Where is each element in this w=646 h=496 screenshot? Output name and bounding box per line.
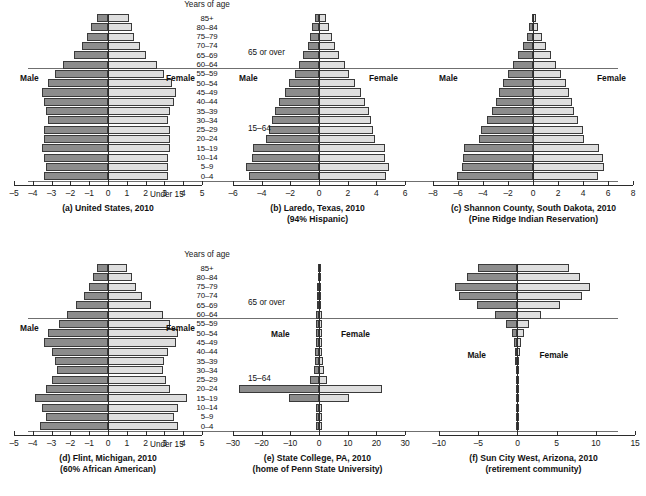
female-bar <box>319 23 329 31</box>
x-axis-tick-label: 10 <box>585 438 607 448</box>
x-axis-tick <box>319 431 320 435</box>
female-label-f: Female <box>539 350 568 360</box>
male-bar <box>289 79 319 87</box>
x-axis-tick <box>164 431 165 435</box>
female-bar <box>108 283 136 291</box>
male-bar <box>266 135 319 143</box>
female-bar <box>108 320 170 328</box>
x-axis-tick-label: –10 <box>279 438 301 448</box>
x-axis-tick <box>483 181 484 185</box>
female-label-e: Female <box>341 329 370 339</box>
x-axis-tick <box>70 181 71 185</box>
female-bar <box>517 301 559 309</box>
x-axis-tick-label: 10 <box>337 438 359 448</box>
x-axis-tick <box>14 181 15 185</box>
female-bar <box>319 163 389 171</box>
x-axis-tick <box>635 431 636 435</box>
male-bar <box>272 116 319 124</box>
male-bar <box>513 61 533 69</box>
panel-e-state-college: –30–20–100102030MaleFemale(e) State Coll… <box>215 250 420 496</box>
male-bar <box>487 116 533 124</box>
male-bar <box>467 273 517 281</box>
x-axis-tick-label: 20 <box>365 438 387 448</box>
female-bar <box>319 116 371 124</box>
male-bar <box>246 163 319 171</box>
x-axis-tick <box>633 181 634 185</box>
female-bar <box>319 98 365 106</box>
female-bar <box>517 264 569 272</box>
male-bar <box>506 320 517 328</box>
female-bar <box>533 116 578 124</box>
female-bar <box>108 42 140 50</box>
x-axis-tick-label: 6 <box>597 188 619 198</box>
x-axis-line-f <box>439 435 635 436</box>
male-bar <box>239 385 319 393</box>
female-bar <box>533 154 603 162</box>
female-bar <box>319 376 327 384</box>
male-bar <box>82 42 108 50</box>
male-bar <box>46 413 108 421</box>
center-axis-line <box>319 14 320 185</box>
x-axis-tick-label: 0 <box>522 188 544 198</box>
female-bar <box>517 283 589 291</box>
x-axis-tick-label: 4 <box>365 188 387 198</box>
female-bar <box>517 311 541 319</box>
x-axis-line-c <box>433 185 633 186</box>
female-bar <box>533 70 561 78</box>
x-axis-tick-label: 15 <box>624 438 646 448</box>
x-axis-tick-label: –30 <box>222 438 244 448</box>
male-bar <box>91 23 108 31</box>
female-bar <box>108 301 151 309</box>
age-group-label: 25–29 <box>184 125 230 134</box>
panel-title-b: (b) Laredo, Texas, 2010 <box>215 203 420 214</box>
panel-c-shannon-county: –8–6–4–202468MaleFemale(c) Shannon Count… <box>421 0 646 248</box>
female-bar <box>319 51 339 59</box>
age-group-row <box>439 301 635 309</box>
female-bar <box>319 14 326 22</box>
female-bar <box>533 107 574 115</box>
age-group-label: 5–9 <box>184 162 230 171</box>
center-axis-line <box>517 264 518 435</box>
male-bar <box>479 135 533 143</box>
age-group-label: 55–59 <box>184 69 230 78</box>
male-bar <box>44 98 108 106</box>
female-bar <box>108 23 132 31</box>
female-bar <box>319 107 369 115</box>
x-axis-tick <box>262 431 263 435</box>
age-group-row <box>439 404 635 412</box>
male-bar <box>496 98 534 106</box>
annotation-15-64-bot: 15–64 <box>248 374 271 383</box>
x-axis-tick-label: 30 <box>394 438 416 448</box>
age-group-label: 30–34 <box>184 366 230 375</box>
female-bar <box>319 79 355 87</box>
male-bar <box>93 273 108 281</box>
x-axis-tick-label: 6 <box>394 188 416 198</box>
x-axis-tick <box>478 431 479 435</box>
female-bar <box>517 292 581 300</box>
x-axis-tick <box>557 431 558 435</box>
male-label-e: Male <box>271 329 290 339</box>
female-bar <box>108 70 164 78</box>
female-bar <box>319 154 385 162</box>
age-group-row <box>439 292 635 300</box>
female-bar <box>319 385 382 393</box>
x-axis-tick <box>262 181 263 185</box>
panel-d-flint: –5–4–3–2–1012345MaleFemale(d) Flint, Mic… <box>2 250 214 496</box>
age-group-label: 15–19 <box>184 394 230 403</box>
female-bar <box>517 320 529 328</box>
age-group-label: 15–19 <box>184 144 230 153</box>
age-group-label: 45–49 <box>184 338 230 347</box>
panel-title-d: (d) Flint, Michigan, 2010 <box>2 453 214 464</box>
age-group-label: 65–69 <box>184 51 230 60</box>
x-axis-tick <box>583 181 584 185</box>
plot-area-e: –30–20–100102030MaleFemale <box>233 250 405 437</box>
panel-b-laredo: –6–4–20246MaleFemale(b) Laredo, Texas, 2… <box>215 0 420 248</box>
x-axis-tick <box>290 431 291 435</box>
male-bar <box>249 172 319 180</box>
x-axis-tick <box>52 431 53 435</box>
female-bar <box>108 413 174 421</box>
panel-caption-e: (e) State College, PA, 2010(home of Penn… <box>215 453 420 475</box>
female-bar <box>533 126 583 134</box>
male-label-f: Male <box>467 350 486 360</box>
age-group-label: 55–59 <box>184 319 230 328</box>
